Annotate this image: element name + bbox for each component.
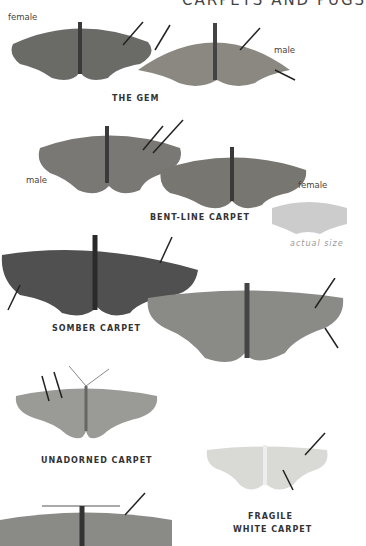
label-female: female	[298, 180, 327, 190]
moth-partial-bottom	[0, 490, 175, 546]
moth-unadorned-carpet	[14, 366, 159, 451]
moth-fragile-white-carpet	[205, 415, 330, 505]
species-label-fragile-white-carpet-line2: WHITE CARPET	[233, 525, 312, 534]
label-male: male	[274, 45, 295, 55]
species-label-bent-line-carpet: BENT-LINE CARPET	[150, 213, 250, 222]
species-label-the-gem: THE GEM	[112, 94, 159, 103]
species-label-somber-carpet: SOMBER CARPET	[52, 324, 141, 333]
label-female: female	[8, 12, 37, 22]
page-header: CARPETS AND PUGS	[182, 0, 366, 9]
actual-size-silhouette	[270, 196, 347, 236]
actual-size-label: actual size	[290, 239, 344, 248]
moth-somber-carpet-variant	[145, 278, 347, 368]
species-label-fragile-white-carpet-line1: FRAGILE	[248, 512, 293, 521]
species-label-unadorned-carpet: UNADORNED CARPET	[41, 456, 153, 465]
label-male: male	[26, 175, 47, 185]
